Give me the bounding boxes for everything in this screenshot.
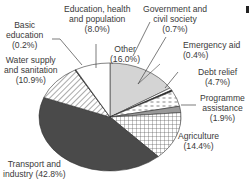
label-line: Transport and xyxy=(3,159,66,169)
label-line: Emergency aid xyxy=(183,40,240,50)
label-basic-education: Basic education (0.2%) xyxy=(6,20,43,50)
label-line: civil society xyxy=(143,14,207,24)
label-line: (0.7%) xyxy=(143,24,207,34)
label-line: (0.2%) xyxy=(6,40,43,50)
label-other: Other (16.0%) xyxy=(110,44,140,64)
label-line: (1.9%) xyxy=(200,113,245,123)
label-water-supply: Water supply and sanitation (10.9%) xyxy=(4,55,58,85)
label-line: (16.0%) xyxy=(110,54,140,64)
label-line: (14.4%) xyxy=(178,141,219,151)
pie-slices xyxy=(39,63,181,171)
label-line: (0.4%) xyxy=(183,50,240,60)
label-agriculture: Agriculture (14.4%) xyxy=(178,131,219,151)
label-debt-relief: Debt relief (4.7%) xyxy=(198,67,237,87)
label-line: Education, health xyxy=(64,4,130,14)
label-education-health: Education, health and population (8.0%) xyxy=(64,4,130,34)
label-line: assistance xyxy=(200,103,245,113)
label-line: and population xyxy=(64,14,130,24)
label-line: Water supply xyxy=(4,55,58,65)
label-line: education xyxy=(6,30,43,40)
edge-mark xyxy=(246,6,249,13)
label-line: (10.9%) xyxy=(4,75,58,85)
label-line: Basic xyxy=(6,20,43,30)
label-line: Debt relief xyxy=(198,67,237,77)
label-line: Government and xyxy=(143,4,207,14)
label-line: industry (42.8%) xyxy=(3,169,66,179)
label-emergency-aid: Emergency aid (0.4%) xyxy=(183,40,240,60)
label-government: Government and civil society (0.7%) xyxy=(143,4,207,34)
label-transport: Transport and industry (42.8%) xyxy=(3,159,66,179)
label-line: (4.7%) xyxy=(198,77,237,87)
label-line: and sanitation xyxy=(4,65,58,75)
label-line: Other xyxy=(110,44,140,54)
label-line: (8.0%) xyxy=(64,24,130,34)
label-line: Programme xyxy=(200,93,245,103)
label-programme-assistance: Programme assistance (1.9%) xyxy=(200,93,245,123)
label-line: Agriculture xyxy=(178,131,219,141)
